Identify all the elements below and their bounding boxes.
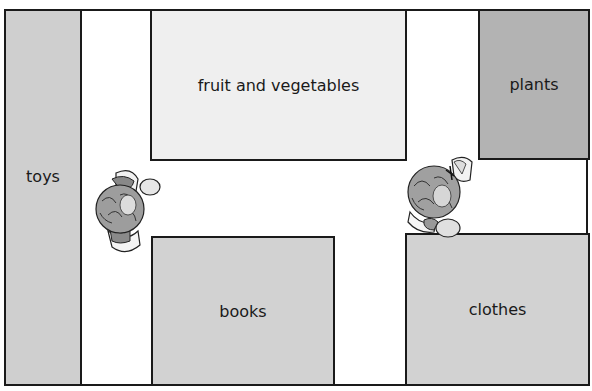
area-plants: plants (478, 9, 590, 160)
area-label-fruit-and-vegetables: fruit and vegetables (198, 76, 360, 95)
person-right-icon (396, 146, 486, 246)
area-label-clothes: clothes (469, 300, 527, 319)
area-label-toys: toys (26, 167, 60, 186)
area-fruit-and-vegetables: fruit and vegetables (150, 9, 407, 161)
area-label-plants: plants (509, 75, 558, 94)
shop-floor-map: toys fruit and vegetables plants books c… (4, 9, 588, 386)
person-left-icon (86, 161, 166, 261)
area-label-books: books (219, 302, 266, 321)
area-toys: toys (4, 9, 82, 386)
area-clothes: clothes (405, 233, 590, 386)
area-books: books (151, 236, 335, 386)
